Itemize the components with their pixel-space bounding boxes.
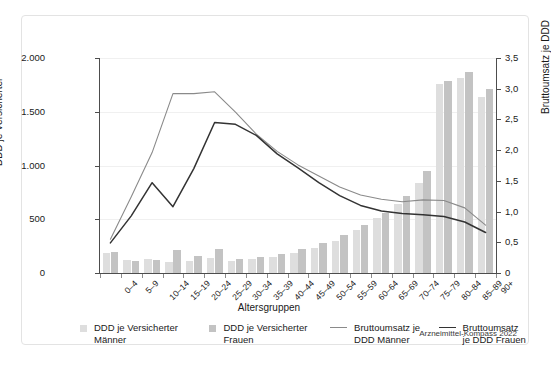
x-axis-category-label: 20–24 bbox=[210, 279, 233, 302]
y-axis-right-tick bbox=[497, 273, 501, 274]
x-axis-tick bbox=[121, 274, 122, 278]
y-axis-right-tick bbox=[497, 89, 501, 90]
legend-label: Bruttoumsatz je DDD Männer bbox=[354, 322, 424, 346]
y-axis-right-title: Bruttoumsatz je DDD bbox=[541, 20, 551, 114]
y-axis-left-tick-label: 1.000 bbox=[21, 161, 45, 171]
x-axis-category-label: 25–29 bbox=[231, 279, 254, 302]
y-axis-right-tick bbox=[497, 58, 501, 59]
x-axis-category-label: 60–64 bbox=[376, 279, 399, 302]
x-axis-category-label: 0–4 bbox=[124, 279, 140, 295]
y-axis-right-tick-label: 3,0 bbox=[505, 84, 518, 94]
y-axis-right-tick-label: 2,5 bbox=[505, 114, 518, 124]
chart-figure: 05001.0001.5002.000 00,51,01,52,02,53,03… bbox=[0, 0, 551, 373]
x-axis-title: Altersgruppen bbox=[238, 303, 300, 313]
x-axis-category-label: 65–69 bbox=[397, 279, 420, 302]
y-axis-right-tick-label: 0 bbox=[505, 268, 510, 278]
legend-item-umsatz-maenner[interactable]: Bruttoumsatz je DDD Männer bbox=[330, 322, 424, 346]
y-axis-left-tick-label: 2.000 bbox=[21, 53, 45, 63]
y-axis-left-tick-label: 1.500 bbox=[21, 107, 45, 117]
y-axis-left-tick bbox=[95, 273, 99, 274]
y-axis-right-tick bbox=[497, 212, 501, 213]
x-axis-tick bbox=[142, 274, 143, 278]
line-series-maenner bbox=[110, 92, 485, 239]
y-axis-right-tick-label: 2,0 bbox=[505, 145, 518, 155]
x-axis-category-label: 50–54 bbox=[335, 279, 358, 302]
y-axis-left-tick bbox=[95, 58, 99, 59]
legend-color-swatch-icon bbox=[80, 325, 87, 332]
legend-item-ddd-frauen[interactable]: DDD je Versicherter Frauen bbox=[209, 322, 316, 346]
x-axis-category-label: 10–14 bbox=[168, 279, 191, 302]
y-axis-left-tick bbox=[95, 219, 99, 220]
legend-color-swatch-icon bbox=[209, 325, 216, 332]
y-axis-right-tick-label: 0,5 bbox=[505, 237, 518, 247]
plot-area bbox=[100, 58, 496, 273]
line-series-frauen bbox=[110, 123, 485, 243]
x-axis-tick bbox=[163, 274, 164, 278]
x-axis-category-label: 75–79 bbox=[439, 279, 462, 302]
source-note: Arzneimittel-Kompass 2022 bbox=[419, 329, 517, 338]
x-axis-category-label: 55–59 bbox=[356, 279, 379, 302]
x-axis-category-label: 15–19 bbox=[189, 279, 212, 302]
y-axis-right-tick-label: 3,5 bbox=[505, 53, 518, 63]
y-axis-left-title: DDD je Versicherter bbox=[0, 78, 4, 166]
y-axis-right-tick-label: 1,5 bbox=[505, 176, 518, 186]
legend-line-swatch-icon bbox=[330, 324, 347, 331]
y-axis-right-tick bbox=[497, 242, 501, 243]
y-axis-right-tick bbox=[497, 119, 501, 120]
x-axis bbox=[100, 273, 497, 274]
x-axis-category-label: 70–74 bbox=[418, 279, 441, 302]
y-axis-left bbox=[99, 58, 100, 274]
x-axis-category-label: 80–84 bbox=[460, 279, 483, 302]
x-axis-category-label: 30–34 bbox=[251, 279, 274, 302]
y-axis-left-tick bbox=[95, 112, 99, 113]
x-axis-category-label: 5–9 bbox=[144, 279, 160, 295]
y-axis-left-tick bbox=[95, 166, 99, 167]
y-axis-right-tick bbox=[497, 181, 501, 182]
y-axis-left-tick-label: 500 bbox=[29, 214, 45, 224]
y-axis-left-tick-label: 0 bbox=[40, 268, 45, 278]
y-axis-right-tick-label: 1,0 bbox=[505, 207, 518, 217]
line-series-group bbox=[100, 58, 496, 273]
chart-panel: 05001.0001.5002.000 00,51,01,52,02,53,03… bbox=[21, 15, 529, 345]
y-axis-right-tick bbox=[497, 150, 501, 151]
x-axis-category-label: 35–39 bbox=[272, 279, 295, 302]
legend-item-ddd-maenner[interactable]: DDD je Versicherter Männer bbox=[80, 322, 195, 346]
x-axis-tick bbox=[100, 274, 101, 278]
x-axis-category-label: 40–44 bbox=[293, 279, 316, 302]
x-axis-category-label: 45–49 bbox=[314, 279, 337, 302]
legend-label: DDD je Versicherter Frauen bbox=[223, 322, 316, 346]
legend-label: DDD je Versicherter Männer bbox=[94, 322, 195, 346]
